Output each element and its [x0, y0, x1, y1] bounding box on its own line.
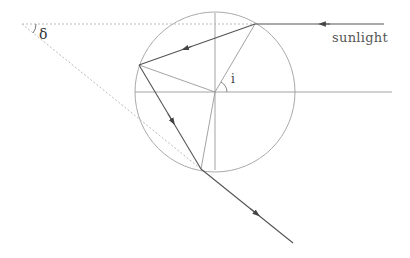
outgoing-ray [201, 169, 293, 243]
deviation-angle-label: δ [39, 27, 47, 41]
outgoing-ray-arrow [250, 208, 257, 214]
incidence-angle-arc [221, 82, 227, 92]
delta-angle-arc [33, 24, 36, 33]
normal-to-reflection-point [139, 65, 215, 92]
refracted-ray-arrow [185, 46, 192, 49]
normal-to-entry-point [215, 24, 255, 92]
dashed-outgoing-extension [22, 24, 201, 169]
normal-to-exit-point [201, 92, 215, 169]
refracted-ray [139, 24, 255, 65]
reflected-ray-arrow [168, 114, 173, 122]
sunlight-label: sunlight [332, 31, 388, 44]
incidence-angle-label: i [231, 73, 235, 85]
